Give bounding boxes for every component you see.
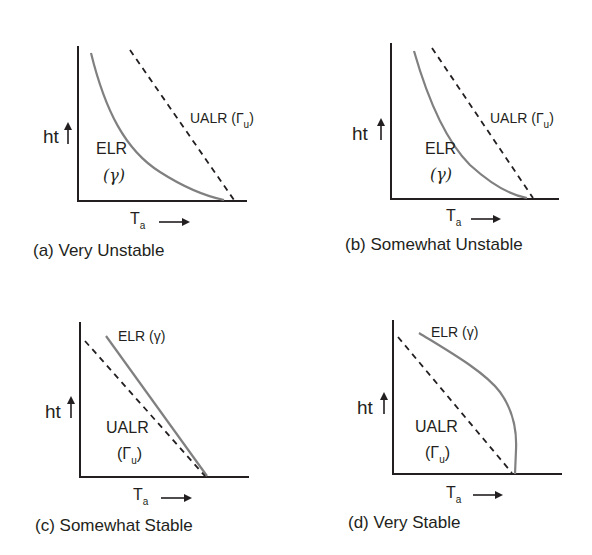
panel-d-caption: (d) Very Stable — [348, 514, 460, 531]
panel-c-ualr-label: UALR — [106, 420, 149, 436]
panel-b-x-label: Ta — [446, 208, 461, 224]
panel-c-elr-label: ELR (γ) — [118, 329, 165, 343]
panel-d — [384, 320, 562, 495]
panel-d-ualr-symbol: (Γu) — [425, 445, 450, 461]
panel-c-y-label: ht — [45, 402, 61, 421]
panel-d-elr-label: ELR (γ) — [431, 325, 478, 339]
panel-b-elr-symbol: (γ) — [430, 167, 452, 183]
panel-b-ualr-label: UALR (Γu) — [490, 111, 554, 125]
panel-a-y-label: ht — [43, 127, 59, 146]
panel-c-caption: (c) Somewhat Stable — [35, 517, 193, 534]
panel-c — [71, 322, 249, 498]
panel-c-ualr-symbol: (Γu) — [117, 446, 142, 462]
panel-c-ualr-line — [85, 341, 205, 476]
panel-c-x-label: Ta — [133, 487, 148, 503]
panel-a-caption: (a) Very Unstable — [33, 242, 164, 259]
panel-b-y-label: ht — [352, 124, 368, 143]
panel-a-elr-symbol: (γ) — [103, 168, 125, 184]
panel-a — [68, 46, 247, 222]
panel-b — [381, 43, 559, 219]
panel-c-axes — [80, 322, 249, 477]
panel-b-caption: (b) Somewhat Unstable — [345, 236, 523, 253]
panel-a-x-label: Ta — [130, 211, 145, 227]
panel-a-elr-label: ELR — [96, 141, 127, 157]
panel-d-y-label: ht — [357, 398, 373, 417]
panel-d-ualr-label: UALR — [415, 419, 458, 435]
panel-d-x-label: Ta — [446, 485, 461, 501]
panel-b-elr-label: ELR — [425, 141, 456, 157]
panel-d-ualr-line — [398, 337, 512, 473]
panel-a-ualr-label: UALR (Γu) — [190, 111, 254, 125]
lapse-rate-diagram — [0, 0, 592, 555]
panel-d-axes — [393, 320, 562, 474]
